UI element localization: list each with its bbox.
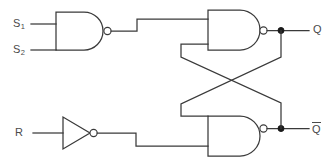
input-label-s1: S1 (13, 18, 25, 29)
not-gate-r-body (63, 117, 90, 149)
input-label-r: R (15, 127, 23, 138)
not-gate-r-inversion-bubble (90, 129, 97, 136)
not-gate-r (63, 117, 97, 149)
nand-gate-q-inversion-bubble (260, 27, 267, 34)
nand-gate-q-body (208, 10, 260, 50)
nand-gate-q (208, 10, 267, 50)
output-label-qbar: Q (312, 122, 321, 135)
wire-set-line (111, 19, 208, 31)
nand-gate-qbar (208, 116, 267, 156)
nand-gate-qbar-body (208, 116, 260, 156)
nand-gate-input (56, 12, 111, 50)
output-label-q: Q (313, 24, 322, 35)
nand-gate-qbar-inversion-bubble (260, 125, 267, 132)
logic-circuit-diagram: S1 S2 R Q Q (0, 0, 334, 163)
wire-q-feedback-to-lower-nand (181, 31, 281, 117)
input-label-s2: S2 (13, 44, 25, 55)
circuit-schematic-canvas (0, 0, 334, 163)
nand-gate-input-inversion-bubble (104, 27, 111, 34)
nand-gate-input-body (56, 12, 103, 50)
wire-reset-line (97, 133, 208, 146)
